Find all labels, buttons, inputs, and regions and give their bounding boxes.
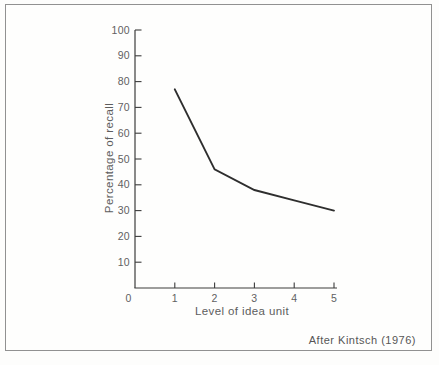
y-tick-label: 70	[118, 101, 130, 113]
x-tick-label: 3	[251, 292, 257, 304]
y-tick-label: 80	[118, 75, 130, 87]
y-tick-label: 30	[118, 204, 130, 216]
scanned-book-page: 102030405060708090100012345 Percentage o…	[0, 0, 439, 365]
x-tick-label: 2	[212, 292, 218, 304]
y-tick-label: 100	[112, 24, 130, 36]
x-tick-label: 4	[291, 292, 297, 304]
x-tick-label: 0	[125, 292, 131, 304]
y-tick-label: 20	[118, 230, 130, 242]
figure-caption: After Kintsch (1976)	[309, 334, 416, 346]
y-tick-label: 10	[118, 256, 130, 268]
recall-data-line	[175, 89, 334, 210]
y-tick-label: 90	[118, 49, 130, 61]
x-tick-label: 1	[172, 292, 178, 304]
y-tick-label: 40	[118, 178, 130, 190]
y-tick-label: 50	[118, 153, 130, 165]
y-axis-title: Percentage of recall	[103, 103, 115, 213]
x-tick-label: 5	[331, 292, 337, 304]
y-tick-label: 60	[118, 127, 130, 139]
x-axis-title: Level of idea unit	[195, 305, 289, 317]
